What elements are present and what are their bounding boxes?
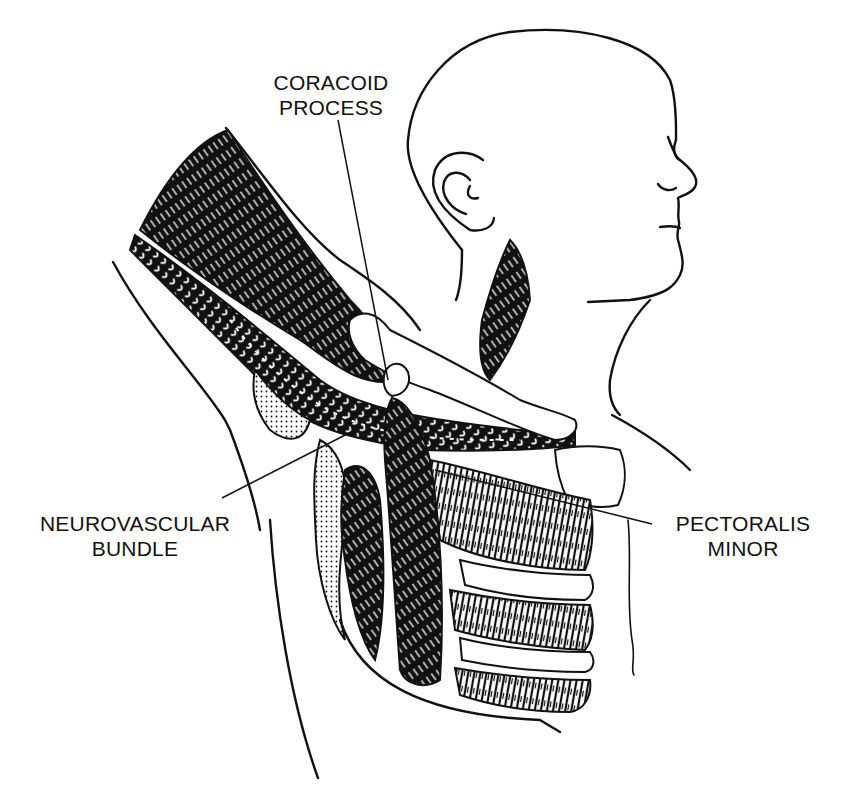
neck-muscle	[480, 240, 530, 380]
label-coracoid-line2: PROCESS	[246, 95, 416, 120]
ear	[433, 153, 494, 231]
label-pectoralis-line2: MINOR	[658, 536, 828, 561]
label-coracoid-process: CORACOID PROCESS	[246, 70, 416, 120]
label-pectoralis-minor: PECTORALIS MINOR	[658, 511, 828, 561]
label-neurovascular-line2: BUNDLE	[10, 536, 260, 561]
head-outline	[408, 30, 697, 302]
label-neurovascular-line1: NEUROVASCULAR	[10, 511, 260, 536]
label-neurovascular-bundle: NEUROVASCULAR BUNDLE	[10, 511, 260, 561]
label-coracoid-line1: CORACOID	[246, 70, 416, 95]
serratus-muscle	[341, 466, 383, 660]
anatomy-illustration	[0, 0, 849, 811]
label-pectoralis-line1: PECTORALIS	[658, 511, 828, 536]
